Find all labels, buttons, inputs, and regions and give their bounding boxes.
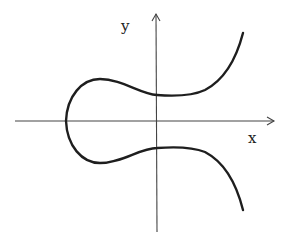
plot-canvas — [0, 0, 291, 235]
x-axis-label: x — [248, 131, 256, 146]
y-axis — [156, 14, 157, 232]
elliptic-curve-diagram: y x — [0, 0, 291, 235]
y-axis-label: y — [121, 19, 129, 34]
